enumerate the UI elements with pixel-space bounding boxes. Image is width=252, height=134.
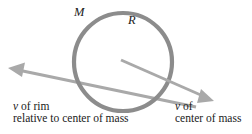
v-of-rim-caption-line1: v of rim	[13, 100, 129, 112]
v-of-cm-caption-line1: v of	[175, 100, 241, 112]
v-of-center-of-mass-arrow	[121, 60, 214, 103]
physics-diagram-rolling-hoop: M R v of rim relative to center of mass …	[0, 0, 252, 134]
v-of-rim-arrow-head	[8, 63, 25, 78]
hoop-radius-label: R	[128, 14, 136, 28]
v-of-rim-caption-line1-rest: of rim	[18, 100, 49, 112]
v-of-rim-caption: v of rim relative to center of mass	[13, 100, 129, 125]
v-of-rim-caption-line2: relative to center of mass	[13, 112, 129, 124]
hoop-mass-label: M	[74, 6, 84, 20]
v-of-center-of-mass-caption: v of center of mass	[175, 100, 241, 125]
v-of-cm-caption-line2: center of mass	[175, 112, 241, 124]
v-of-cm-caption-line1-rest: of	[180, 100, 192, 112]
